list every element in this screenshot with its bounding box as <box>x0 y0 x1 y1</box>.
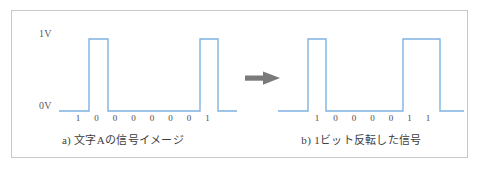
bit-label: 1 <box>199 113 218 123</box>
bit-label: 0 <box>327 113 346 123</box>
caption-original-signal: a) 文字Aの信号イメージ <box>8 131 238 147</box>
bit-label: 0 <box>162 113 181 123</box>
bit-label: 0 <box>88 113 107 123</box>
bit-label: 0 <box>364 113 383 123</box>
bit-label: 0 <box>382 113 401 123</box>
bit-label: 0 <box>143 113 162 123</box>
caption-flipped-signal: b) 1ビット反転した信号 <box>248 131 475 147</box>
signal-diagram-figure: 1V 0V 1 0 0 0 0 0 0 1 a) 文字Aの信号イメージ <box>0 0 481 174</box>
bit-labels-original: 1 0 0 0 0 0 0 1 <box>69 113 217 123</box>
bit-label: 0 <box>345 113 364 123</box>
figure-frame: 1V 0V 1 0 0 0 0 0 0 1 a) 文字Aの信号イメージ <box>11 10 468 158</box>
bit-labels-flipped: 1 0 0 0 0 1 1 <box>308 113 438 123</box>
bit-label: 1 <box>69 113 88 123</box>
bit-label: 0 <box>106 113 125 123</box>
panel-original-signal: 1V 0V 1 0 0 0 0 0 0 1 a) 文字Aの信号イメージ <box>12 11 242 159</box>
bit-label: 0 <box>125 113 144 123</box>
bit-label: 0 <box>180 113 199 123</box>
bit-label: 1 <box>401 113 420 123</box>
bit-label: 1 <box>308 113 327 123</box>
bit-label: 1 <box>419 113 438 123</box>
panel-flipped-signal: 1 0 0 0 0 1 1 b) 1ビット反転した信号 <box>242 11 469 159</box>
